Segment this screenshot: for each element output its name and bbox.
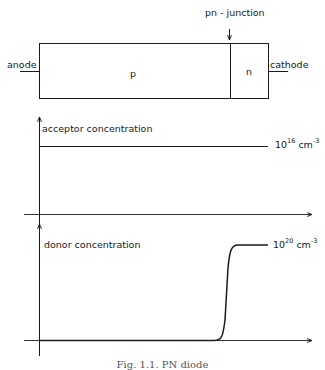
p-region-label: p bbox=[130, 69, 136, 79]
anode-label: anode bbox=[7, 60, 37, 70]
acceptor-concentration-label: acceptor concentration bbox=[42, 124, 152, 134]
pn-junction-label: pn - junction bbox=[205, 8, 265, 18]
diode-structure bbox=[20, 29, 288, 99]
n-region-label: n bbox=[246, 67, 252, 77]
diode-body bbox=[40, 44, 269, 99]
donor-concentration-label: donor concentration bbox=[44, 240, 140, 250]
cathode-label: cathode bbox=[270, 60, 308, 70]
acceptor-value-label: 1016 cm-3 bbox=[275, 140, 319, 150]
donor-value-label: 1020 cm-3 bbox=[273, 240, 317, 250]
figure-caption: Fig. 1.1. PN diode bbox=[0, 359, 325, 370]
donor-profile-curve bbox=[40, 245, 269, 341]
